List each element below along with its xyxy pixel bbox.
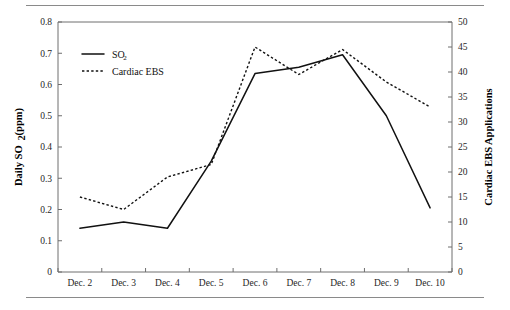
right-axis-tick-label: 45	[458, 42, 468, 52]
left-axis-tick-label: 0.2	[40, 205, 52, 215]
x-axis-tick-label: Dec. 8	[330, 278, 355, 288]
y-axis-title: Daily SO2 (ppm)	[13, 107, 27, 186]
left-axis-tick-label: 0.4	[40, 142, 52, 152]
left-axis-tick-label: 0.1	[40, 236, 52, 246]
right-axis-tick-label: 35	[458, 92, 468, 102]
x-axis-tick-label: Dec. 9	[374, 278, 399, 288]
right-axis-tick-label: 15	[458, 192, 468, 202]
right-axis-tick-label: 40	[458, 67, 468, 77]
figure-container: 00.10.20.30.40.50.60.70.8051015202530354…	[0, 0, 510, 310]
right-axis-tick-label: 50	[458, 17, 468, 27]
right-axis-tick-label: 20	[458, 167, 468, 177]
x-axis-tick-label: Dec. 2	[67, 278, 92, 288]
y-axis-title-tail: (ppm)	[13, 107, 25, 135]
right-axis-tick-label: 25	[458, 142, 468, 152]
left-axis-tick-label: 0	[47, 267, 52, 277]
chart-plot: 00.10.20.30.40.50.60.70.8051015202530354…	[0, 0, 510, 310]
right-axis-tick-label: 10	[458, 217, 468, 227]
x-axis-tick-label: Dec. 3	[111, 278, 136, 288]
legend-label-2: Cardiac EBS	[112, 66, 164, 77]
x-axis-tick-label: Dec. 5	[199, 278, 224, 288]
right-axis-tick-label: 30	[458, 117, 468, 127]
left-axis-tick-label: 0.5	[40, 111, 52, 121]
left-axis-tick-label: 0.3	[40, 174, 52, 184]
left-axis-tick-label: 0.8	[40, 17, 52, 27]
x-axis-tick-label: Dec. 7	[286, 278, 311, 288]
x-axis-tick-label: Dec. 6	[243, 278, 268, 288]
y2-axis-title-text: Cardiac EBS Applications	[483, 88, 494, 205]
right-axis-tick-label: 5	[458, 242, 463, 252]
x-axis-tick-label: Dec. 4	[155, 278, 180, 288]
x-axis-tick-label: Dec. 10	[415, 278, 445, 288]
legend-group: SO2Cardiac EBS	[82, 49, 164, 77]
legend-label-subscript-1: 2	[123, 54, 127, 62]
left-axis-tick-label: 0.7	[40, 49, 52, 59]
right-axis-tick-label: 0	[458, 267, 463, 277]
axis-titles-group: Daily SO2 (ppm)Cardiac EBS Applications	[13, 88, 494, 205]
left-axis-tick-label: 0.6	[40, 80, 52, 90]
y-axis-title-main: Daily SO	[13, 145, 24, 186]
y2-axis-title: Cardiac EBS Applications	[483, 88, 494, 205]
